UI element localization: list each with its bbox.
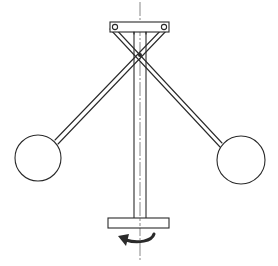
bottom-plate — [108, 218, 169, 228]
left-arm — [55, 25, 168, 144]
right-pivot-icon — [161, 24, 166, 29]
left-pivot-icon — [112, 24, 117, 29]
right-ball — [217, 136, 265, 184]
arm-crossing-hub — [138, 53, 142, 57]
governor-diagram — [0, 0, 278, 266]
top-bracket — [110, 22, 169, 34]
left-ball — [15, 135, 61, 181]
right-arm — [110, 25, 222, 147]
rotation-arrow-icon — [118, 234, 154, 246]
diagram-svg — [0, 0, 278, 266]
